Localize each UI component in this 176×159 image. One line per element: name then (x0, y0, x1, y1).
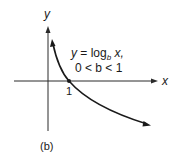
y-axis-label: y (44, 8, 50, 20)
y-axis-arrow-icon (46, 26, 51, 33)
log-graph (0, 0, 176, 159)
x-axis-label: x (162, 75, 168, 87)
equation-text: = log (77, 46, 107, 60)
panel-label: (b) (40, 141, 53, 152)
point-label: 1 (66, 86, 72, 97)
x-axis-arrow-icon (151, 79, 158, 84)
point-one (67, 79, 71, 83)
equation-label: y = logb x, (71, 47, 124, 62)
condition-label: 0 < b < 1 (75, 62, 122, 74)
curve-end-arrow-icon (143, 121, 152, 127)
equation-var: x, (111, 46, 124, 60)
curve-start-arrow-icon (50, 39, 56, 47)
